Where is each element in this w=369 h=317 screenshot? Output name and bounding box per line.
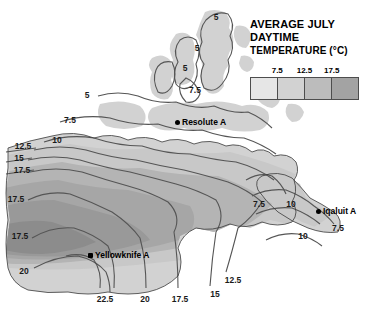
legend-title-line1: AVERAGE JULY	[250, 18, 365, 31]
legend-title: AVERAGE JULY DAYTIME TEMPERATURE (°C)	[250, 18, 365, 57]
legend-title-line2: DAYTIME	[250, 31, 365, 44]
legend-title-line3: TEMPERATURE (°C)	[250, 44, 365, 57]
legend-scale: 7.5 12.5 17.5	[250, 66, 359, 100]
contour-label: 20	[19, 266, 28, 276]
contour-label: 17.5	[172, 294, 189, 304]
legend-swatch-2	[305, 78, 332, 99]
legend-tick-1: 12.5	[297, 66, 313, 75]
contour-label: 10	[286, 199, 295, 209]
legend-tick-0: 7.5	[272, 66, 283, 75]
station-dot-icon	[316, 209, 321, 214]
contour-label: 12.5	[225, 275, 242, 285]
legend: AVERAGE JULY DAYTIME TEMPERATURE (°C) 7.…	[250, 18, 365, 100]
station-name: Iqaluit A	[323, 206, 356, 216]
legend-tick-2: 17.5	[324, 66, 340, 75]
contour-label: 5	[214, 12, 219, 22]
legend-swatches	[250, 77, 359, 100]
contour-label: 15	[210, 289, 219, 299]
contour-label: 22.5	[97, 294, 114, 304]
station-dot-icon	[88, 253, 93, 258]
contour-label: 17.5	[12, 231, 29, 241]
contour-label: 17.5	[14, 165, 31, 175]
station-marker: Yellowknife A	[88, 250, 149, 260]
contour-label: 7.5	[64, 115, 76, 125]
contour-label: 7.5	[189, 85, 201, 95]
legend-swatch-1	[278, 78, 305, 99]
station-dot-icon	[175, 120, 180, 125]
contour-label: 20	[140, 294, 149, 304]
contour-label: 10	[298, 231, 307, 241]
station-marker: Iqaluit A	[316, 206, 356, 216]
contour-label: 10	[52, 135, 61, 145]
station-name: Yellowknife A	[95, 250, 149, 260]
station-name: Resolute A	[182, 117, 226, 127]
map-figure: AVERAGE JULY DAYTIME TEMPERATURE (°C) 7.…	[0, 0, 369, 317]
station-marker: Resolute A	[175, 117, 226, 127]
contour-label: 7.5	[253, 199, 265, 209]
contour-label: 5	[85, 90, 90, 100]
contour-label: 7.5	[332, 223, 344, 233]
legend-swatch-0	[251, 78, 278, 99]
legend-swatch-3	[332, 78, 358, 99]
contour-label: 17.5	[8, 194, 25, 204]
contour-label: 5	[195, 43, 200, 53]
contour-label: 12.5	[15, 141, 32, 151]
contour-label: 5	[183, 63, 188, 73]
legend-tick-labels: 7.5 12.5 17.5	[250, 66, 359, 77]
contour-label: 15	[14, 153, 23, 163]
